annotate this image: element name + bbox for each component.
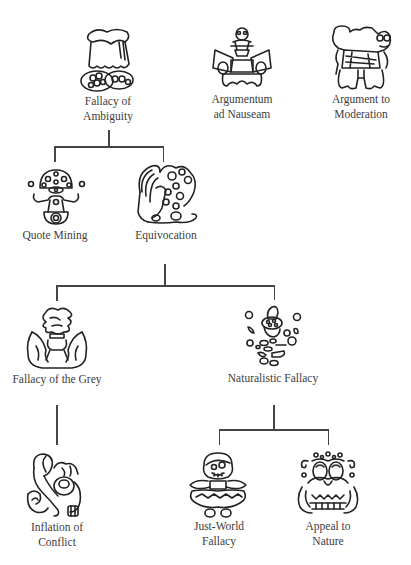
node-naturalistic-fallacy: Naturalistic Fallacy	[218, 305, 328, 386]
connector-to-equivocation	[163, 146, 165, 162]
connector-naturalistic-bar	[219, 429, 329, 431]
node-label: Inflation of	[12, 520, 102, 535]
twin-creature-icon	[328, 24, 394, 92]
node-fallacy-of-the-grey: Fallacy of the Grey	[2, 306, 112, 387]
node-label: Fallacy of the Grey	[2, 372, 112, 387]
node-label: Argumentum	[197, 92, 287, 107]
node-label: Argument to	[316, 92, 406, 107]
node-equivocation: Equivocation	[121, 162, 211, 243]
node-inflation-of-conflict: Inflation of Conflict	[12, 452, 102, 550]
connector-to-fallacy-of-the-grey	[56, 285, 58, 301]
node-label: Fallacy	[174, 534, 264, 549]
serpent-creature-icon	[24, 452, 90, 520]
node-label: Equivocation	[121, 228, 211, 243]
skirted-doll-icon	[186, 451, 252, 519]
cloud-winged-icon	[24, 306, 90, 372]
connector-naturalistic-stem	[273, 405, 275, 429]
node-label: Naturalistic Fallacy	[218, 371, 328, 386]
connector-to-naturalistic-fallacy	[274, 285, 276, 300]
node-quote-mining: Quote Mining	[10, 166, 100, 243]
connector-ambiguity-stem	[108, 130, 110, 147]
skull-horn-creature-icon	[209, 26, 275, 92]
mushroom-creature-icon	[24, 166, 86, 228]
connector-to-just-world	[219, 429, 221, 445]
node-argument-to-moderation: Argument to Moderation	[316, 24, 406, 122]
connector-equivocation-stem	[164, 264, 166, 285]
node-label: Quote Mining	[10, 228, 100, 243]
node-label: Moderation	[316, 107, 406, 122]
node-fallacy-of-ambiguity: Fallacy of Ambiguity	[58, 28, 158, 124]
node-label: ad Nauseam	[197, 107, 287, 122]
node-label: Conflict	[12, 535, 102, 550]
node-label: Just-World	[174, 519, 264, 534]
node-label: Fallacy of	[58, 94, 158, 109]
node-label: Ambiguity	[58, 109, 158, 124]
connector-to-appeal-to-nature	[328, 429, 330, 445]
node-argumentum-ad-nauseam: Argumentum ad Nauseam	[197, 26, 287, 122]
connector-to-quote-mining	[54, 146, 56, 162]
connector-equivocation-bar	[56, 285, 275, 287]
draped-creature-icon	[75, 28, 141, 94]
node-label: Appeal to	[283, 519, 373, 534]
node-label: Nature	[283, 534, 373, 549]
connector-grey-to-inflation	[56, 405, 58, 445]
floating-leaves-icon	[240, 305, 306, 371]
node-just-world-fallacy: Just-World Fallacy	[174, 451, 264, 549]
node-appeal-to-nature: Appeal to Nature	[283, 451, 373, 549]
winged-dragon-icon	[132, 162, 200, 228]
connector-ambiguity-bar	[54, 146, 164, 148]
tentacle-creature-icon	[294, 451, 362, 519]
